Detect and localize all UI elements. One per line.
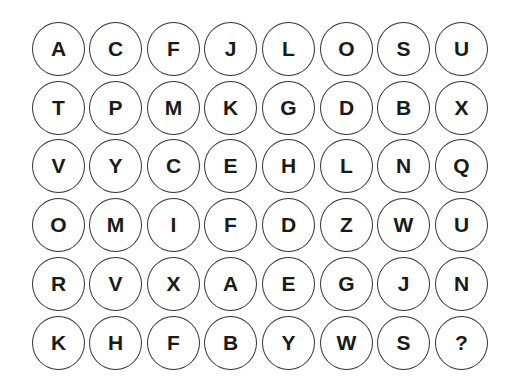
letter-circle: S xyxy=(377,22,430,76)
letter-circle: P xyxy=(89,81,142,135)
letter-circle: A xyxy=(204,257,257,311)
missing-letter-circle: ? xyxy=(435,316,488,370)
letter-circle: G xyxy=(320,257,373,311)
letter-circle: B xyxy=(204,316,257,370)
letter-circle: O xyxy=(320,22,373,76)
letter-circle: O xyxy=(32,198,85,252)
letter-circle: L xyxy=(320,139,373,193)
letter-circle: W xyxy=(377,198,430,252)
letter-circle: E xyxy=(262,257,315,311)
letter-circle: F xyxy=(204,198,257,252)
letter-circle: F xyxy=(147,22,200,76)
letter-circle: V xyxy=(32,139,85,193)
letter-circle: V xyxy=(89,257,142,311)
letter-circle: T xyxy=(32,81,85,135)
letter-circle: L xyxy=(262,22,315,76)
letter-circle: M xyxy=(89,198,142,252)
letter-circle: E xyxy=(204,139,257,193)
letter-circle: C xyxy=(89,22,142,76)
letter-circle: F xyxy=(147,316,200,370)
letter-circle: B xyxy=(377,81,430,135)
letter-circle: J xyxy=(377,257,430,311)
letter-circle: D xyxy=(320,81,373,135)
letter-circle: N xyxy=(435,257,488,311)
letter-circle: N xyxy=(377,139,430,193)
letter-circle: G xyxy=(262,81,315,135)
letter-circle: Y xyxy=(89,139,142,193)
letter-circle: Q xyxy=(435,139,488,193)
letter-circle: R xyxy=(32,257,85,311)
letter-circle: M xyxy=(147,81,200,135)
letter-circle: W xyxy=(320,316,373,370)
letter-circle: J xyxy=(204,22,257,76)
letter-circle: S xyxy=(377,316,430,370)
letter-circle: I xyxy=(147,198,200,252)
letter-circle: Z xyxy=(320,198,373,252)
letter-circle: X xyxy=(435,81,488,135)
letter-circle: K xyxy=(32,316,85,370)
letter-circle: Y xyxy=(262,316,315,370)
letter-circle: U xyxy=(435,198,488,252)
letter-circle-grid: A C F J L O S U T P M K G D B X V Y C E … xyxy=(0,0,521,385)
letter-circle: U xyxy=(435,22,488,76)
letter-circle: H xyxy=(89,316,142,370)
letter-circle: D xyxy=(262,198,315,252)
letter-circle: C xyxy=(147,139,200,193)
letter-circle: H xyxy=(262,139,315,193)
letter-circle: K xyxy=(204,81,257,135)
letter-circle: X xyxy=(147,257,200,311)
letter-circle: A xyxy=(32,22,85,76)
